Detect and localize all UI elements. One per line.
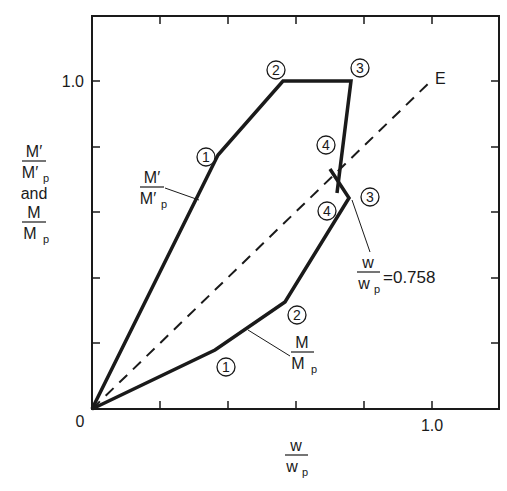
svg-text:1: 1 [222, 359, 230, 375]
svg-text:w: w [361, 254, 374, 271]
svg-text:4: 4 [323, 203, 331, 219]
x-tick-1-label: 1.0 [421, 417, 443, 434]
svg-text:p: p [374, 283, 380, 295]
ratio-leader [352, 200, 370, 252]
circled-label-mprime-1: 1 [197, 148, 215, 166]
diagram-canvas: 1 2 3 4 1 2 3 4 E 0 1.0 1.0 M′ M′ p and … [0, 0, 507, 491]
svg-text:w: w [357, 275, 370, 292]
elastic-line-e [92, 80, 432, 409]
svg-text:p: p [43, 172, 49, 184]
m-curve-label: M M p [291, 334, 317, 375]
svg-text:M′: M′ [140, 190, 156, 207]
svg-text:M: M [295, 334, 308, 351]
svg-text:4: 4 [322, 137, 330, 153]
circled-label-mprime-4: 4 [317, 136, 335, 154]
svg-text:2: 2 [272, 62, 280, 78]
svg-text:w: w [289, 437, 302, 454]
svg-text:M′: M′ [26, 143, 42, 160]
mprime-curve-label: M′ M′ p [140, 169, 167, 210]
circled-label-m-4: 4 [318, 202, 336, 220]
svg-text:M: M [23, 225, 36, 242]
svg-text:p: p [43, 233, 49, 245]
circled-label-m-1: 1 [217, 358, 235, 376]
circled-label-m-3: 3 [361, 188, 379, 206]
y-ticks [92, 81, 499, 343]
svg-text:M′: M′ [144, 169, 160, 186]
svg-text:p: p [302, 466, 308, 478]
circled-label-m-2: 2 [288, 306, 306, 324]
circled-label-mprime-2: 2 [267, 61, 285, 79]
e-label: E [435, 70, 446, 87]
y-tick-1-label: 1.0 [62, 73, 84, 90]
svg-text:3: 3 [366, 189, 374, 205]
ratio-annotation: w w p =0.758 [357, 254, 435, 295]
svg-text:M′: M′ [22, 164, 38, 181]
y-axis-label: M′ M′ p and M M p [21, 143, 49, 245]
svg-text:3: 3 [356, 60, 364, 76]
svg-text:=0.758: =0.758 [383, 268, 435, 287]
m-leader [248, 330, 290, 356]
svg-text:M: M [291, 355, 304, 372]
svg-text:p: p [311, 363, 317, 375]
origin-label: 0 [76, 413, 85, 430]
svg-text:and: and [21, 185, 48, 202]
circled-label-mprime-3: 3 [351, 59, 369, 77]
svg-text:p: p [161, 198, 167, 210]
mprime-leader [165, 188, 199, 200]
svg-text:M: M [27, 204, 40, 221]
x-axis-label: w w p [285, 437, 308, 478]
svg-text:2: 2 [293, 307, 301, 323]
svg-text:w: w [285, 458, 298, 475]
svg-text:1: 1 [202, 149, 210, 165]
